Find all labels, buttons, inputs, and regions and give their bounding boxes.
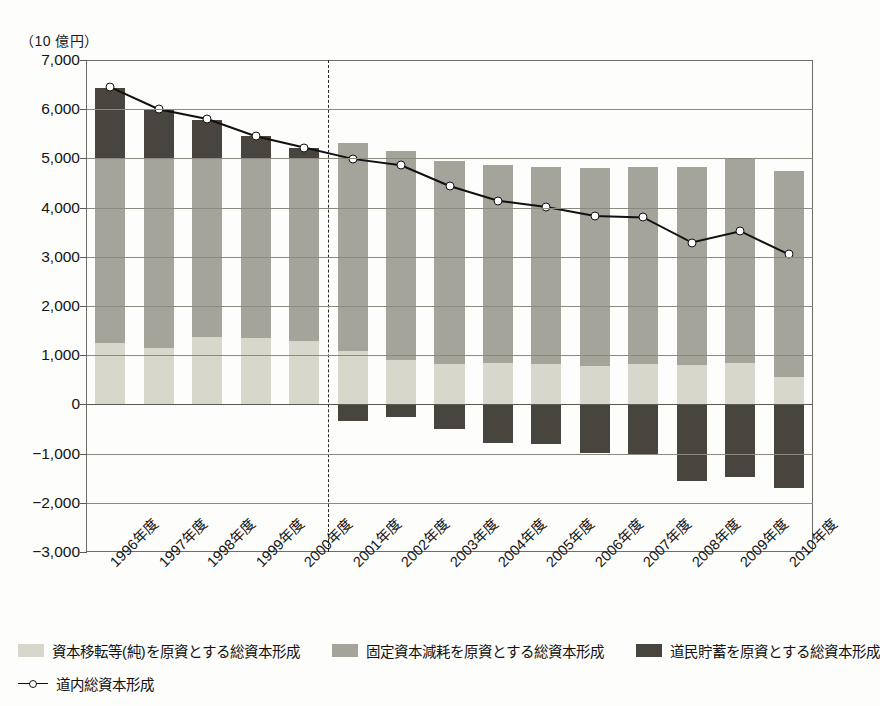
y-axis-tick <box>80 208 87 209</box>
line-marker-icon <box>18 678 48 690</box>
y-axis-tick-label: 2,000 <box>8 297 80 315</box>
legend-swatch-icon <box>332 644 358 657</box>
line-data-point[interactable] <box>493 196 502 205</box>
y-axis-tick-label: 3,000 <box>8 248 80 266</box>
gridline <box>86 109 813 110</box>
y-axis-tick-label: 5,000 <box>8 149 80 167</box>
x-axis-tick-label-group: 1996年度1997年度1998年度1999年度2000年度2001年度2002… <box>86 556 813 631</box>
gridline <box>86 503 813 504</box>
y-axis-unit-label: （10 億円） <box>20 30 99 50</box>
y-axis-tick-label: 6,000 <box>8 100 80 118</box>
y-axis-tick-label: 4,000 <box>8 199 80 217</box>
gridline <box>86 257 813 258</box>
gridline <box>86 208 813 209</box>
line-data-point[interactable] <box>445 181 454 190</box>
legend-item-0[interactable]: 資本移転等(純)を原資とする総資本形成 <box>18 640 300 661</box>
line-data-point[interactable] <box>639 213 648 222</box>
cropped-header-text <box>0 0 850 14</box>
legend-swatch-icon <box>636 644 662 657</box>
chart-legend: 資本移転等(純)を原資とする総資本形成固定資本減耗を原資とする総資本形成道民貯蓄… <box>18 640 844 694</box>
line-data-point[interactable] <box>687 238 696 247</box>
legend-swatch-icon <box>18 644 44 657</box>
legend-row-bars: 資本移転等(純)を原資とする総資本形成固定資本減耗を原資とする総資本形成道民貯蓄… <box>18 640 844 661</box>
gridline <box>86 158 813 159</box>
line-data-point[interactable] <box>106 83 115 92</box>
legend-item-1[interactable]: 固定資本減耗を原資とする総資本形成 <box>332 640 604 661</box>
line-data-point[interactable] <box>590 211 599 220</box>
line-data-point[interactable] <box>397 161 406 170</box>
legend-row-line: 道内総資本形成 <box>18 673 844 694</box>
y-axis-tick <box>80 355 87 356</box>
line-data-point[interactable] <box>736 227 745 236</box>
legend-item-2[interactable]: 道民貯蓄を原資とする総資本形成 <box>636 640 880 661</box>
y-axis-tick-label: 7,000 <box>8 51 80 69</box>
legend-item-label: 資本移転等(純)を原資とする総資本形成 <box>52 640 300 661</box>
gridline <box>86 454 813 455</box>
y-axis-tick-label: −1,000 <box>8 445 80 463</box>
line-data-point[interactable] <box>203 115 212 124</box>
y-axis-tick <box>80 158 87 159</box>
line-data-point[interactable] <box>300 143 309 152</box>
gridline <box>86 306 813 307</box>
y-axis-tick <box>80 404 87 405</box>
y-axis-tick <box>80 306 87 307</box>
y-axis-tick <box>80 60 87 61</box>
gridline <box>86 355 813 356</box>
chart-plot-area <box>86 60 813 552</box>
y-axis-tick-label: 1,000 <box>8 346 80 364</box>
legend-item-label: 固定資本減耗を原資とする総資本形成 <box>366 640 604 661</box>
y-axis-tick <box>80 454 87 455</box>
y-axis-tick <box>80 109 87 110</box>
legend-item-line-label: 道内総資本形成 <box>56 673 154 694</box>
y-axis-tick <box>80 257 87 258</box>
y-axis-tick-label: −3,000 <box>8 543 80 561</box>
line-data-point[interactable] <box>251 132 260 141</box>
y-axis-tick <box>80 552 87 553</box>
y-axis-tick <box>80 503 87 504</box>
y-axis-tick-label: 0 <box>8 395 80 413</box>
y-axis-tick-label: −2,000 <box>8 494 80 512</box>
legend-item-line: 道内総資本形成 <box>18 673 154 694</box>
gridline <box>86 404 813 405</box>
legend-item-label: 道民貯蓄を原資とする総資本形成 <box>670 640 880 661</box>
y-axis-tick-label-group: 7,0006,0005,0004,0003,0002,0001,0000−1,0… <box>0 60 80 552</box>
